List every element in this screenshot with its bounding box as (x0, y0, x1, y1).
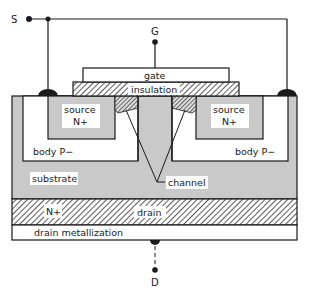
body-right-label: body P− (235, 146, 275, 157)
drain-metallization-label: drain metallization (34, 227, 123, 238)
drain-terminal-dot (152, 267, 158, 273)
substrate-label: substrate (32, 173, 77, 184)
source-terminal-label: S (11, 14, 17, 25)
source-right-type: N+ (222, 116, 237, 127)
drain-label: drain (137, 207, 161, 218)
gate-label: gate (144, 70, 166, 81)
drain-contact (150, 240, 160, 245)
source-junction-dot (46, 17, 51, 22)
mosfet-diagram: S G insulation gate source N+ source N+ … (0, 0, 309, 294)
gate-wiring (152, 39, 158, 68)
source-right-contact (277, 89, 297, 96)
body-left-label: body P− (33, 146, 73, 157)
source-left-contact (38, 89, 58, 96)
drain-terminal-label: D (151, 277, 159, 288)
insulation-label: insulation (131, 84, 177, 95)
channel-label: channel (168, 177, 206, 188)
gate-terminal-label: G (151, 26, 159, 37)
drain-nplus-label: N+ (46, 206, 61, 217)
source-right-label: source (213, 104, 245, 115)
source-left-type: N+ (73, 116, 88, 127)
source-terminal-dot (26, 16, 32, 22)
gate-terminal-dot (152, 39, 158, 45)
source-left-label: source (64, 104, 96, 115)
